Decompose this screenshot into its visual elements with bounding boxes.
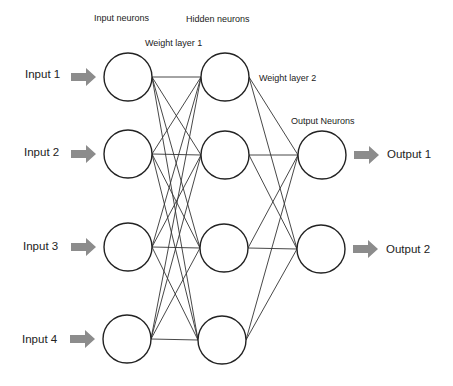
input-neuron-3 xyxy=(104,223,152,271)
weight-layer-2-edge xyxy=(246,249,297,340)
input-2-label: Input 2 xyxy=(24,146,59,158)
input-neuron-1 xyxy=(104,53,152,101)
weight-layer-1-edge xyxy=(152,154,201,155)
hidden-neuron-1 xyxy=(201,53,249,101)
weight-layer-1-edge xyxy=(152,77,198,340)
neuron-nodes xyxy=(103,53,346,364)
io-arrows xyxy=(70,68,379,348)
hidden-neuron-2 xyxy=(201,131,249,179)
input-4-label: Input 4 xyxy=(22,333,57,345)
input-neuron-4 xyxy=(103,315,151,363)
output-1-arrow-icon xyxy=(354,146,379,164)
weight-layer-2-label: Weight layer 2 xyxy=(259,73,316,83)
weight-layer-1-edge xyxy=(151,339,198,340)
output-1-label: Output 1 xyxy=(387,148,431,160)
connection-edges xyxy=(151,77,298,340)
input-1-arrow-icon xyxy=(71,68,96,86)
hidden-neuron-4 xyxy=(198,316,246,364)
input-3-label: Input 3 xyxy=(23,240,58,252)
hidden-neurons-header: Hidden neurons xyxy=(186,14,250,24)
weight-layer-2-edge xyxy=(246,155,298,340)
output-neuron-2 xyxy=(297,225,345,273)
input-neuron-2 xyxy=(104,130,152,178)
weight-layer-2-edge xyxy=(248,248,297,249)
neural-network-diagram xyxy=(0,0,453,386)
weight-layer-2-edge xyxy=(248,155,298,248)
weight-layer-1-edge xyxy=(151,248,200,339)
output-2-arrow-icon xyxy=(353,240,378,258)
weight-layer-2-edge xyxy=(249,77,297,249)
weight-layer-1-label: Weight layer 1 xyxy=(145,38,202,48)
input-3-arrow-icon xyxy=(71,238,96,256)
output-neurons-header: Output Neurons xyxy=(291,116,355,126)
input-1-label: Input 1 xyxy=(25,68,60,80)
output-neuron-1 xyxy=(298,131,346,179)
input-2-arrow-icon xyxy=(71,145,96,163)
hidden-neuron-3 xyxy=(200,224,248,272)
input-neurons-header: Input neurons xyxy=(94,13,149,23)
input-4-arrow-icon xyxy=(70,330,95,348)
output-2-label: Output 2 xyxy=(386,243,430,255)
